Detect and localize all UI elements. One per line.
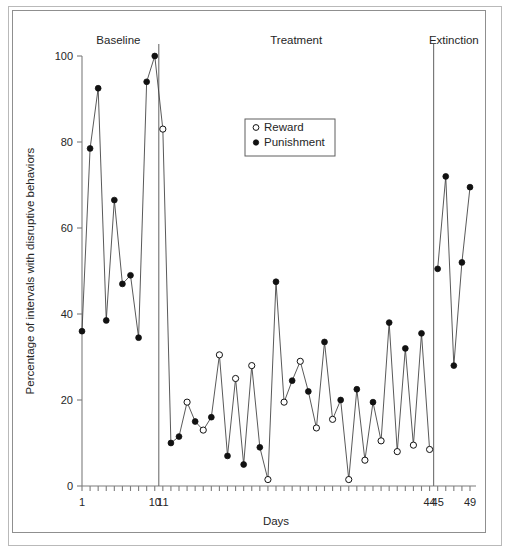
y-axis-tick-label: 20	[61, 394, 73, 406]
legend-marker-reward	[253, 125, 259, 131]
chart-plot-area: 020406080100Percentage of intervals with…	[0, 0, 514, 557]
legend-label-reward: Reward	[264, 121, 304, 133]
data-point-punishment-day-27[interactable]	[289, 378, 295, 384]
data-point-punishment-day-15[interactable]	[192, 419, 198, 425]
phase-label-baseline: Baseline	[96, 34, 140, 46]
data-point-punishment-day-29[interactable]	[305, 389, 311, 395]
data-point-reward-day-24[interactable]	[265, 476, 271, 482]
data-point-punishment-day-31[interactable]	[322, 339, 328, 345]
data-point-reward-day-22[interactable]	[249, 363, 255, 369]
data-point-punishment-day-6[interactable]	[120, 281, 126, 287]
y-axis-tick-label: 40	[61, 308, 73, 320]
data-point-punishment-day-3[interactable]	[95, 85, 101, 91]
y-axis-tick-label: 0	[67, 480, 73, 492]
data-point-punishment-day-33[interactable]	[338, 397, 344, 403]
phase-label-treatment: Treatment	[270, 34, 323, 46]
data-point-reward-day-20[interactable]	[232, 375, 238, 381]
data-point-punishment-day-48[interactable]	[459, 260, 465, 266]
data-point-reward-day-32[interactable]	[329, 416, 335, 422]
x-axis-tick-label: 49	[464, 496, 476, 508]
data-point-punishment-day-49[interactable]	[467, 184, 473, 190]
data-point-punishment-day-45[interactable]	[435, 266, 441, 272]
data-point-punishment-day-39[interactable]	[386, 320, 392, 326]
data-point-punishment-day-37[interactable]	[370, 399, 376, 405]
data-point-punishment-day-1[interactable]	[79, 328, 85, 334]
data-point-reward-day-40[interactable]	[394, 449, 400, 455]
data-point-punishment-day-9[interactable]	[144, 79, 150, 85]
data-point-punishment-day-2[interactable]	[87, 146, 93, 152]
data-point-reward-day-14[interactable]	[184, 399, 190, 405]
data-point-reward-day-26[interactable]	[281, 399, 287, 405]
data-point-punishment-day-17[interactable]	[208, 414, 214, 420]
data-point-punishment-day-23[interactable]	[257, 444, 263, 450]
x-axis-tick-label: 1	[79, 496, 85, 508]
y-axis-tick-label: 100	[55, 50, 73, 62]
x-axis-tick-label: 11	[157, 496, 168, 508]
data-point-punishment-day-41[interactable]	[402, 346, 408, 352]
data-point-reward-day-36[interactable]	[362, 457, 368, 463]
data-point-reward-day-44[interactable]	[426, 446, 432, 452]
data-point-punishment-day-13[interactable]	[176, 434, 182, 440]
data-point-punishment-day-25[interactable]	[273, 279, 279, 285]
y-axis-tick-label: 80	[61, 136, 73, 148]
data-point-reward-day-28[interactable]	[297, 358, 303, 364]
series-line-segment-1	[438, 176, 470, 365]
data-point-punishment-day-35[interactable]	[354, 386, 360, 392]
data-point-reward-day-38[interactable]	[378, 438, 384, 444]
data-point-punishment-day-47[interactable]	[451, 363, 457, 369]
data-point-reward-day-11[interactable]	[160, 126, 166, 132]
data-point-punishment-day-12[interactable]	[168, 440, 174, 446]
data-point-punishment-day-8[interactable]	[136, 335, 142, 341]
chart-svg: 020406080100Percentage of intervals with…	[0, 0, 514, 557]
data-point-reward-day-42[interactable]	[410, 442, 416, 448]
y-axis-tick-label: 60	[61, 222, 73, 234]
data-point-reward-day-18[interactable]	[216, 352, 222, 358]
data-point-reward-day-34[interactable]	[346, 476, 352, 482]
data-point-reward-day-16[interactable]	[200, 427, 206, 433]
x-axis-title: Days	[263, 515, 289, 527]
data-point-punishment-day-19[interactable]	[225, 453, 231, 459]
data-point-punishment-day-5[interactable]	[111, 197, 117, 203]
data-point-punishment-day-4[interactable]	[103, 318, 109, 324]
y-axis-title: Percentage of intervals with disruptive …	[24, 147, 36, 394]
data-point-punishment-day-21[interactable]	[241, 462, 247, 468]
data-point-punishment-day-43[interactable]	[419, 330, 425, 336]
data-point-punishment-day-10[interactable]	[152, 53, 158, 59]
legend-marker-punishment	[253, 140, 258, 145]
data-point-reward-day-30[interactable]	[313, 425, 319, 431]
data-point-punishment-day-46[interactable]	[443, 174, 449, 180]
phase-label-extinction: Extinction	[429, 34, 479, 46]
x-axis-tick-label: 45	[432, 496, 444, 508]
data-point-punishment-day-7[interactable]	[128, 272, 134, 278]
legend-label-punishment: Punishment	[264, 136, 326, 148]
